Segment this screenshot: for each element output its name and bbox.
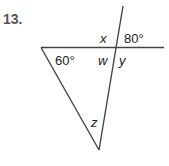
label-y: y (118, 53, 127, 68)
transversal-line (99, 6, 123, 150)
geometry-figure: x 80° 60° w y z (0, 0, 169, 166)
label-angle-60: 60° (55, 53, 75, 68)
label-z: z (90, 115, 98, 130)
label-w: w (98, 53, 109, 68)
label-angle-80: 80° (124, 31, 144, 46)
label-x: x (99, 31, 107, 46)
